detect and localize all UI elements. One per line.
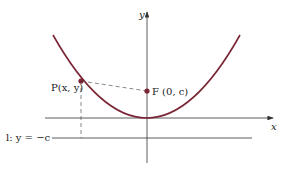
- y-axis-label: y: [138, 9, 145, 20]
- focus-label: F (0, c): [152, 86, 188, 97]
- x-axis-label: x: [271, 121, 277, 132]
- directrix-label: l: y = −c: [6, 132, 51, 143]
- focus-point: [144, 88, 149, 93]
- point-p-label: P(x, y): [51, 82, 83, 93]
- parabola-diagram: y x P(x, y) F (0, c) l: y = −c: [0, 0, 283, 172]
